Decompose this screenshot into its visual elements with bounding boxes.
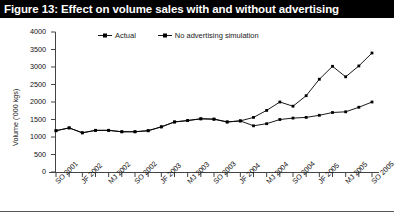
data-point-marker [305, 116, 308, 119]
data-point-marker [371, 52, 374, 55]
chart-legend: Actual No advertising simulation [98, 31, 259, 40]
figure-title-bar: Figure 13: Effect on volume sales with a… [0, 0, 394, 18]
data-point-marker [252, 116, 255, 119]
legend-label-no-advertising-simulation: No advertising simulation [175, 31, 259, 40]
data-point-marker [147, 129, 150, 132]
legend-marker-icon [98, 32, 112, 39]
actual-line [56, 102, 372, 133]
data-point-marker [160, 125, 163, 128]
series-actual [55, 101, 374, 135]
figure-bottom-rule [0, 211, 394, 212]
no-advertising-simulation-markers [55, 52, 374, 135]
data-point-marker [292, 105, 295, 108]
y-tick-label: 500 [16, 151, 46, 159]
data-point-marker [265, 122, 268, 125]
y-tick-label: 2000 [16, 98, 46, 106]
axis-group [49, 32, 379, 173]
data-point-marker [94, 129, 97, 132]
y-tick-label: 1000 [16, 133, 46, 141]
figure-title: Figure 13: Effect on volume sales with a… [4, 1, 339, 17]
data-point-marker [331, 111, 334, 114]
y-tick-label: 2500 [16, 81, 46, 89]
legend-label-actual: Actual [115, 31, 136, 40]
data-point-marker [213, 118, 216, 121]
no-advertising-simulation-line [56, 53, 372, 133]
data-point-marker [239, 120, 242, 123]
data-point-marker [81, 131, 84, 134]
data-point-marker [265, 109, 268, 112]
data-point-marker [357, 106, 360, 109]
y-tick-label: 4000 [16, 28, 46, 36]
data-point-marker [107, 129, 110, 132]
legend-entry-actual: Actual [98, 31, 136, 40]
data-point-marker [226, 121, 229, 124]
data-point-marker [331, 65, 334, 68]
y-tick-marks [51, 32, 56, 172]
data-point-marker [173, 121, 176, 124]
data-point-marker [318, 78, 321, 81]
legend-entry-no-advertising-simulation: No advertising simulation [158, 31, 259, 40]
actual-markers [55, 101, 374, 135]
data-point-marker [305, 94, 308, 97]
data-point-marker [318, 114, 321, 117]
data-point-marker [68, 127, 71, 130]
data-point-marker [186, 119, 189, 122]
legend-marker-icon [158, 32, 172, 39]
data-point-marker [371, 101, 374, 104]
data-point-marker [120, 130, 123, 133]
data-point-marker [292, 117, 295, 120]
series-no-advertising-simulation [55, 52, 374, 135]
y-tick-label: 1500 [16, 116, 46, 124]
chart-area: Actual No advertising simulation Volume … [0, 18, 394, 201]
data-point-marker [199, 117, 202, 120]
data-point-marker [134, 130, 137, 133]
data-point-marker [278, 101, 281, 104]
data-point-marker [55, 129, 58, 132]
y-tick-label: 0 [16, 168, 46, 176]
y-tick-label: 3500 [16, 46, 46, 54]
y-tick-label: 3000 [16, 63, 46, 71]
data-point-marker [252, 124, 255, 127]
data-point-marker [344, 110, 347, 113]
data-point-marker [278, 118, 281, 121]
data-point-marker [357, 65, 360, 68]
data-point-marker [344, 75, 347, 78]
